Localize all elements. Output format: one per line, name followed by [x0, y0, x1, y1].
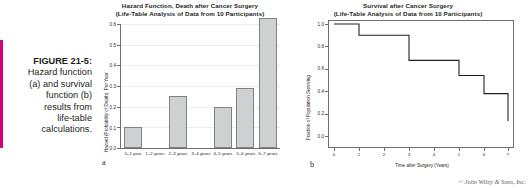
chart-a-ytick-3: 0.3: [102, 84, 116, 89]
chart-a-gridline: [120, 24, 280, 25]
copyright-notice: © John Wiley & Sons, Inc.: [458, 178, 526, 185]
chart-a-ytick-2: 0.2: [102, 105, 116, 110]
chart-a-plot: Hazard (Probability of Death), Per Year …: [96, 18, 284, 182]
bar-0-1-year: [124, 127, 142, 148]
chart-b-ytick-5: 1.0: [310, 22, 324, 27]
chart-b-subtitle: (Life-Table Analysis of Data from 10 Par…: [292, 10, 524, 18]
chart-a-gridline: [120, 65, 280, 66]
chart-b-xtickmark: [409, 148, 410, 151]
chart-b-xtickmark: [334, 148, 335, 151]
chart-b-ytick-0: 0.0: [310, 134, 324, 139]
chart-b-xtickmark: [434, 148, 435, 151]
chart-b-xtickmark: [359, 148, 360, 151]
chart-b-xtickmark: [459, 148, 460, 151]
figure-number: FIGURE 21-5:: [33, 56, 92, 66]
chart-b-xtick-6: 6: [476, 152, 492, 157]
chart-b-xtick-0: 0: [326, 152, 342, 157]
chart-b-ylabel: Fraction of Population Surviving: [306, 75, 311, 140]
chart-a-gridline: [120, 45, 280, 46]
chart-a-ytickmark: [117, 24, 120, 25]
chart-b-xtick-4: 4: [426, 152, 442, 157]
chart-b-xtick-5: 5: [451, 152, 467, 157]
chart-b-ytick-4: 0.8: [310, 44, 324, 49]
bar-6-7-years: [259, 18, 277, 149]
caption-line-4: results from: [44, 102, 92, 112]
caption-line-3: function (b): [46, 90, 92, 100]
chart-b-xtick-7: 7: [500, 152, 516, 157]
chart-a-ytickmark: [117, 107, 120, 108]
chart-a-gridline: [120, 107, 280, 108]
chart-a-gridline: [120, 127, 280, 128]
figure-caption: FIGURE 21-5: Hazard function (a) and sur…: [0, 56, 92, 136]
caption-line-6: calculations.: [41, 124, 92, 134]
chart-b-plot: Fraction of Population Surviving 0.0 0.2…: [292, 18, 524, 182]
chart-a-title: Hazard Function, Death after Cancer Surg…: [96, 2, 284, 10]
bar-2-3-years: [169, 96, 187, 148]
chart-b-xtick-3: 3: [401, 152, 417, 157]
chart-a-ytickmark: [117, 65, 120, 66]
chart-a-subtitle: (Life-Table Analysis of Data from 10 Par…: [96, 10, 284, 18]
bar-4-5-years: [214, 107, 232, 148]
chart-a-ytick-4: 0.4: [102, 63, 116, 68]
chart-b-xtick-2: 2: [376, 152, 392, 157]
chart-b-frame: [328, 20, 514, 148]
chart-b-ytick-2: 0.4: [310, 89, 324, 94]
caption-line-5: life-table: [57, 113, 92, 123]
chart-b-xtick-1: 1: [351, 152, 367, 157]
chart-b-title: Survival after Cancer Surgery: [292, 2, 524, 10]
chart-b-xtickmark: [508, 148, 509, 151]
chart-a-x-axis: [120, 148, 280, 149]
chart-a-ytick-1: 0.1: [102, 126, 116, 131]
bar-5-6-years: [236, 88, 254, 148]
chart-a-ytick-6: 0.6: [102, 22, 116, 27]
chart-a-ytick-5: 0.5: [102, 43, 116, 48]
chart-a-y-axis: [120, 24, 121, 148]
chart-a-xtick-6: 6–7 years: [246, 151, 290, 156]
chart-b-xtickmark: [384, 148, 385, 151]
chart-a-gridline: [120, 86, 280, 87]
chart-b-xlabel: Time after Surgery (Years): [352, 163, 492, 168]
panel-b-letter: b: [310, 160, 314, 169]
chart-b-ytick-3: 0.6: [310, 66, 324, 71]
panel-a-hazard-function: Hazard Function, Death after Cancer Surg…: [96, 2, 284, 182]
caption-line-2: (a) and survival: [29, 79, 92, 89]
chart-b-xtickmark: [484, 148, 485, 151]
panel-a-letter: a: [102, 158, 106, 167]
caption-line-1: Hazard function: [28, 67, 92, 77]
chart-a-ytickmark: [117, 45, 120, 46]
chart-b-ytick-1: 0.2: [310, 111, 324, 116]
panel-b-survival-function: Survival after Cancer Surgery (Life-Tabl…: [292, 2, 524, 182]
chart-a-ytickmark: [117, 86, 120, 87]
chart-a-ytickmark: [117, 127, 120, 128]
